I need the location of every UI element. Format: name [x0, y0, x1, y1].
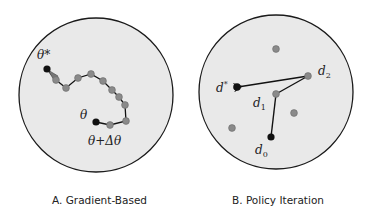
caption-b: B. Policy Iteration	[232, 194, 324, 206]
d2-point	[305, 73, 312, 80]
policy-point	[229, 125, 236, 132]
policy-point	[291, 110, 298, 117]
panel-gradient-based: θ* θ θ+Δθ A. Gradient-Based	[19, 18, 173, 206]
panel-policy-iteration: d* d2 d1 d0 B. Policy Iteration	[199, 15, 353, 206]
gradient-step-point	[123, 118, 130, 125]
gradient-step-point	[116, 94, 123, 101]
d-star-point	[233, 83, 241, 91]
theta-delta-label: θ+Δθ	[88, 134, 122, 148]
gradient-step-point	[109, 87, 116, 94]
gradient-step-point	[100, 78, 107, 85]
gradient-step-point	[88, 71, 95, 78]
figure: θ* θ θ+Δθ A. Gradient-Based d* d2 d1 d0 …	[0, 0, 369, 220]
gradient-step-point	[122, 102, 129, 109]
optimum-point	[43, 65, 50, 72]
gradient-step-point	[53, 77, 60, 84]
gradient-step-point	[107, 122, 114, 129]
theta-label: θ	[80, 108, 88, 122]
parameter-space-circle	[19, 18, 173, 172]
caption-a: A. Gradient-Based	[52, 194, 147, 206]
d1-point	[273, 91, 280, 98]
theta-star-label: θ*	[37, 48, 50, 62]
gradient-step-point	[75, 75, 82, 82]
d0-point	[267, 133, 274, 140]
policy-point	[273, 46, 280, 53]
start-point	[92, 118, 99, 125]
gradient-step-point	[63, 85, 70, 92]
